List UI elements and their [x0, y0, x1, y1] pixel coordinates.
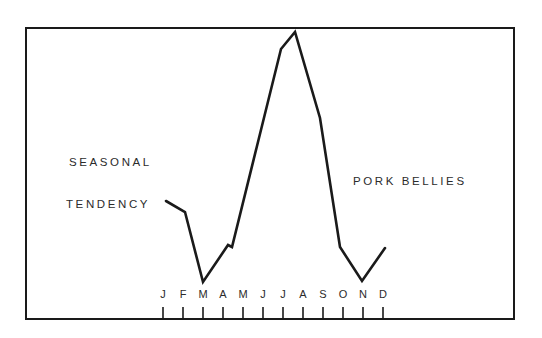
x-tick-label-mar: M [196, 288, 210, 300]
x-tick-label-dec: D [376, 288, 390, 300]
x-tick-label-jul: J [276, 288, 290, 300]
x-tick-label-nov: N [356, 288, 370, 300]
x-tick-label-sep: S [316, 288, 330, 300]
x-tick-label-feb: F [176, 288, 190, 300]
x-tick-label-apr: A [216, 288, 230, 300]
x-tick-label-jan: J [156, 288, 170, 300]
chart-frame-border [25, 27, 515, 320]
x-tick-label-may: M [236, 288, 250, 300]
annotation-tendency: TENDENCY [66, 198, 150, 210]
annotation-seasonal: SEASONAL [69, 156, 152, 168]
annotation-series-label: PORK BELLIES [353, 175, 467, 187]
x-tick-label-jun: J [256, 288, 270, 300]
x-tick-label-oct: O [336, 288, 350, 300]
x-tick-label-aug: A [296, 288, 310, 300]
chart-page: SEASONAL TENDENCY PORK BELLIES J F M A M… [0, 0, 542, 338]
